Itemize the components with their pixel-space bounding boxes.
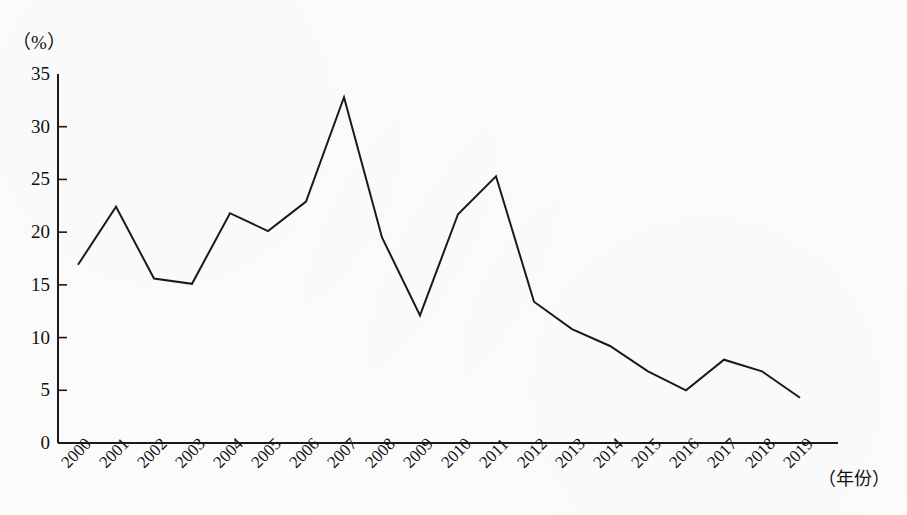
- chart-page: （%） （年份） 05101520253035 2000200120022003…: [0, 0, 907, 515]
- line-chart: （%） （年份） 05101520253035 2000200120022003…: [0, 0, 907, 515]
- data-series-line: [78, 97, 800, 398]
- axis-lines: [58, 74, 838, 443]
- chart-plot-area: [0, 0, 907, 515]
- y-axis-tick-marks: [58, 127, 67, 391]
